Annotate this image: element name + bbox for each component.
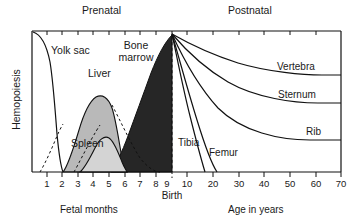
yolk-sac-label: Yolk sac	[51, 45, 90, 56]
prenatal-heading: Prenatal	[82, 5, 121, 16]
birth-marker-label: Birth	[152, 191, 192, 202]
bone-marrow-label-line1: Bone	[113, 40, 159, 51]
postnatal-heading: Postnatal	[228, 5, 272, 16]
x-axis-title-postnatal: Age in years	[228, 205, 284, 216]
femur-label: Femur	[209, 148, 238, 159]
tick-label-year-40: 40	[254, 179, 274, 189]
liver-label: Liver	[88, 68, 111, 79]
tick-label-fetal-9: 9	[157, 179, 177, 189]
x-axis-title-prenatal: Fetal months	[60, 205, 118, 216]
bottom-axis-ticks	[47, 172, 341, 177]
vertebra-label: Vertebra	[277, 62, 315, 73]
bone-marrow-label-line2: marrow	[110, 52, 162, 63]
spleen-label: Spleen	[71, 138, 104, 149]
tick-label-year-30: 30	[229, 179, 249, 189]
sternum-label: Sternum	[278, 90, 316, 101]
tick-label-year-10: 10	[177, 179, 197, 189]
y-axis-title: Hemopoiesis	[11, 58, 22, 142]
tick-label-year-20: 20	[203, 179, 223, 189]
rib-label: Rib	[306, 127, 321, 138]
tick-label-year-70: 70	[331, 179, 351, 189]
tick-label-year-50: 50	[280, 179, 300, 189]
tick-label-year-60: 60	[306, 179, 326, 189]
tibia-label: Tibia	[178, 138, 199, 149]
hemopoiesis-figure: Prenatal Postnatal Hemopoiesis Yolk sac …	[0, 0, 354, 224]
